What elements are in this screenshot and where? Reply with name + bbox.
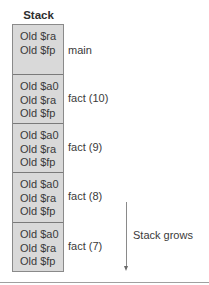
frame-line: Old $ra	[20, 30, 56, 44]
stack-frame-fact-10: Old $a0 Old $ra Old $fp	[13, 74, 63, 123]
frame-line: Old $ra	[20, 143, 59, 157]
frame-line: Old $fp	[20, 44, 56, 58]
frame-label-fact-10: fact (10)	[68, 92, 108, 104]
stack-grows-label: Stack grows	[133, 229, 193, 241]
frame-line: Old $a0	[20, 178, 59, 192]
frame-line: Old $fp	[20, 156, 59, 170]
stack-box: Old $ra Old $fp Old $a0 Old $ra Old $fp …	[12, 24, 64, 272]
frame-line: Old $a0	[20, 80, 59, 94]
frame-label-main: main	[68, 44, 92, 56]
stack-frame-fact-8: Old $a0 Old $ra Old $fp	[13, 172, 63, 222]
frame-label-fact-7: fact (7)	[68, 240, 102, 252]
frame-line: Old $ra	[20, 94, 59, 108]
frame-line: Old $fp	[20, 205, 59, 219]
frame-line: Old $ra	[20, 192, 59, 206]
frame-line: Old $fp	[20, 107, 59, 121]
stack-frame-fact-7: Old $a0 Old $ra Old $fp	[13, 222, 63, 272]
frame-line: Old $ra	[20, 242, 59, 256]
stack-frame-fact-9: Old $a0 Old $ra Old $fp	[13, 123, 63, 172]
stack-grows-arrow-shaft	[126, 202, 127, 268]
frame-label-fact-8: fact (8)	[68, 190, 102, 202]
frame-line: Old $fp	[20, 255, 59, 269]
frame-line: Old $a0	[20, 228, 59, 242]
frame-line: Old $a0	[20, 129, 59, 143]
stack-frame-main: Old $ra Old $fp	[13, 25, 63, 75]
arrow-down-icon	[124, 266, 128, 271]
frame-label-fact-9: fact (9)	[68, 141, 102, 153]
stack-title: Stack	[12, 9, 65, 21]
bottom-rule	[0, 282, 209, 283]
